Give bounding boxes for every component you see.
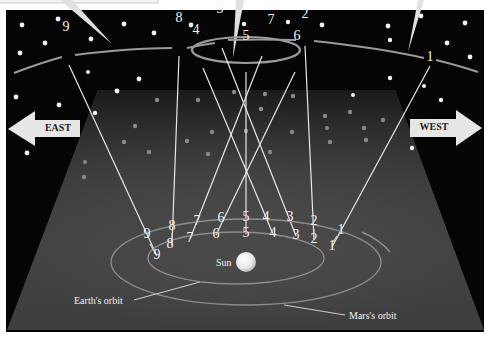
retrograde-motion-diagram: Sun 1 2 3 4 5 6 7 8 9 1 2 3 4 5 6 7 8 9 … — [0, 0, 488, 339]
mars-number-5: 5 — [243, 209, 250, 224]
earth-orbit-label: Earth's orbit — [74, 295, 123, 306]
earth-number-5: 5 — [243, 225, 250, 240]
mars-number-8: 8 — [169, 218, 176, 233]
earth-number-7: 7 — [187, 230, 194, 245]
mars-orbit-label: Mars's orbit — [349, 310, 397, 321]
sky-number-4: 4 — [193, 22, 200, 37]
sky-number-7: 7 — [268, 12, 275, 27]
sky-number-5: 5 — [243, 28, 250, 43]
earth-number-1: 1 — [329, 238, 336, 253]
earth-number-8: 8 — [167, 236, 174, 251]
mars-number-1: 1 — [338, 222, 345, 237]
mars-number-7: 7 — [194, 213, 201, 228]
earth-number-9: 9 — [154, 247, 161, 262]
sky-number-8: 8 — [176, 10, 183, 25]
sun — [236, 252, 256, 272]
west-label: WEST — [420, 121, 449, 132]
east-label: EAST — [45, 122, 71, 133]
sky-number-6: 6 — [294, 28, 301, 43]
earth-number-6: 6 — [213, 226, 220, 241]
sun-label: Sun — [216, 257, 232, 268]
mars-number-9: 9 — [144, 226, 151, 241]
earth-number-3: 3 — [293, 227, 300, 242]
earth-number-2: 2 — [311, 231, 318, 246]
mars-number-2: 2 — [311, 213, 318, 228]
mars-number-6: 6 — [218, 210, 225, 225]
mars-number-3: 3 — [287, 209, 294, 224]
sky-number-9: 9 — [63, 19, 70, 34]
mars-number-4: 4 — [263, 209, 270, 224]
earth-number-4: 4 — [270, 225, 277, 240]
sky-number-1: 1 — [427, 49, 434, 64]
